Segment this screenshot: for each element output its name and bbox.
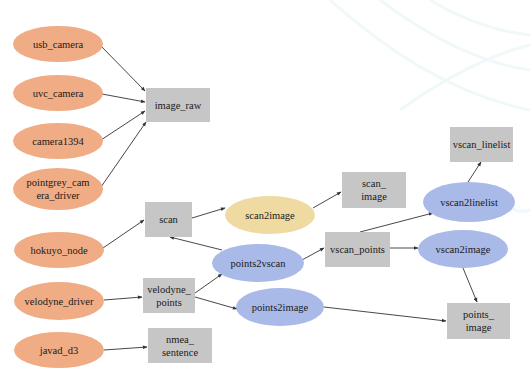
- node-label: pointgrey_cam: [27, 177, 90, 188]
- edge-vscan2linelist-to-vscan_linelist: [468, 162, 481, 182]
- node-label: scan_: [362, 178, 387, 189]
- node-label: usb_camera: [33, 39, 83, 50]
- node-label: javad_d3: [39, 345, 79, 356]
- node-label: vscan_points: [330, 244, 385, 255]
- node-label: points_: [463, 309, 495, 320]
- node-velodyne-driver: velodyne_driver: [14, 282, 104, 320]
- ros-dataflow-diagram: usb_camerauvc_cameracamera1394pointgrey_…: [0, 0, 530, 380]
- edge-velodyne_driver-to-velodyne_points: [104, 297, 142, 300]
- node-label: image: [466, 322, 492, 333]
- edge-points2vscan-to-scan: [170, 237, 222, 250]
- node-label: uvc_camera: [33, 88, 84, 99]
- node-label: vscan2linelist: [440, 197, 498, 208]
- node-label: points: [156, 297, 182, 308]
- node-label: velodyne_driver: [25, 296, 94, 307]
- node-camera1394: camera1394: [13, 123, 103, 159]
- edge-scan2image-to-scan_image: [313, 192, 341, 208]
- node-label: vscan2image: [436, 244, 491, 255]
- node-uvc-camera: uvc_camera: [13, 75, 103, 111]
- node-label: camera1394: [32, 136, 84, 147]
- topic-vscan-linelist: vscan_linelist: [450, 127, 513, 162]
- node-label: hokuyo_node: [30, 245, 88, 256]
- topic-points-image: points_image: [447, 303, 510, 339]
- edge-uvc_camera-to-image_raw: [102, 94, 145, 102]
- node-label: velodyne_: [147, 284, 191, 295]
- edge-javad_d3-to-nmea_sentence: [104, 347, 147, 350]
- node-label: era_driver: [36, 190, 80, 201]
- edge-velodyne_points-to-points2vscan: [195, 274, 222, 293]
- edge-hokuyo_node-to-scan: [103, 220, 144, 248]
- topic-image-raw: image_raw: [146, 88, 210, 122]
- node-scan2image: scan2image: [225, 196, 315, 234]
- node-label: scan2image: [245, 210, 295, 221]
- node-javad-d3: javad_d3: [14, 332, 104, 368]
- node-usb-camera: usb_camera: [13, 26, 103, 62]
- topic-scan-image: scan_image: [342, 172, 406, 208]
- node-vscan2image: vscan2image: [418, 230, 508, 268]
- edge-scan-to-scan2image: [192, 208, 225, 218]
- edge-points2vscan-to-vscan_points: [302, 248, 324, 260]
- node-label: vscan_linelist: [453, 139, 511, 150]
- node-label: image: [361, 191, 387, 202]
- edge-camera1394-to-image_raw: [101, 111, 145, 140]
- node-label: image_raw: [155, 100, 202, 111]
- node-label: nmea_: [166, 334, 195, 345]
- node-hokuyo-node: hokuyo_node: [14, 232, 104, 268]
- topic-velodyne-points: velodyne_points: [143, 278, 195, 313]
- node-points2image: points2image: [236, 288, 324, 326]
- edge-points2image-to-points_image: [324, 307, 446, 321]
- edge-pointgrey_camera_driver-to-image_raw: [101, 122, 146, 187]
- ellipse-shape: [13, 168, 103, 210]
- topic-scan: scan: [145, 202, 192, 237]
- node-label: points2image: [252, 302, 309, 313]
- topic-vscan-points: vscan_points: [325, 232, 390, 267]
- node-label: scan: [159, 214, 178, 225]
- edge-velodyne_points-to-points2image: [195, 297, 237, 309]
- edge-vscan2image-to-points_image: [463, 268, 477, 302]
- topic-nmea-sentence: nmea_sentence: [148, 328, 212, 363]
- node-pointgrey-camera-driver: pointgrey_camera_driver: [13, 168, 103, 210]
- node-label: sentence: [162, 347, 198, 358]
- edge-usb_camera-to-image_raw: [101, 46, 145, 91]
- node-vscan2linelist: vscan2linelist: [423, 182, 515, 222]
- edge-vscan_points-to-vscan2linelist: [360, 213, 433, 232]
- node-points2vscan: points2vscan: [212, 244, 304, 282]
- node-label: points2vscan: [231, 258, 287, 269]
